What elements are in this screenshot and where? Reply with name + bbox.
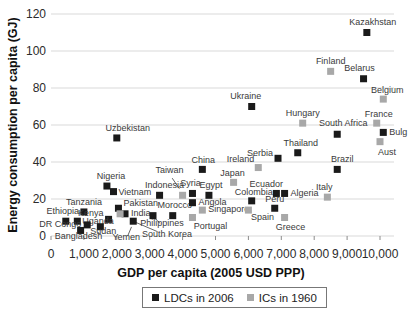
- data-point-yemen: [130, 218, 137, 225]
- x-tick-label: 0: [48, 247, 55, 261]
- legend-swatch-gray-square-icon: [247, 294, 254, 301]
- data-point-japan: [230, 179, 237, 186]
- point-label-ireland: Ireland: [227, 154, 255, 164]
- point-label-ethiopia: Ethiopia: [47, 206, 80, 216]
- point-label-ecuador: Ecuador: [250, 179, 284, 189]
- x-tick-label: 8,000: [299, 247, 329, 261]
- data-point-bulg: [380, 129, 387, 136]
- x-axis-title: GDP per capita (2005 USD PPP): [117, 266, 304, 280]
- y-tick-label: 40: [33, 155, 47, 169]
- point-label-aust: Aust: [378, 147, 397, 157]
- data-point-kazakhstan: [363, 29, 370, 36]
- point-label-nigeria: Nigeria: [97, 171, 126, 181]
- data-point-finland: [327, 68, 334, 75]
- data-point-italy: [324, 194, 331, 201]
- point-label-portugal: Portugal: [194, 221, 228, 231]
- y-tick-label: 120: [26, 7, 46, 21]
- point-label-japan: Japan: [220, 168, 245, 178]
- data-point-thailand: [294, 149, 301, 156]
- point-label-morocco: Morocco: [157, 200, 192, 210]
- y-tick-label: 60: [33, 118, 47, 132]
- point-label-india: India: [131, 208, 151, 218]
- x-tick-label: 10,000: [362, 247, 399, 261]
- legend: LDCs in 2006 ICs in 1960: [142, 287, 327, 308]
- point-label-finland: Finland: [316, 56, 346, 66]
- point-label-bulg: Bulg: [389, 127, 407, 137]
- x-tick-label: 5,000: [200, 247, 230, 261]
- point-label-uzbekistan: Uzbekistan: [106, 123, 151, 133]
- y-tick-label: 100: [26, 44, 46, 58]
- y-tick-label: 20: [33, 192, 47, 206]
- data-point-vietnam: [110, 188, 117, 195]
- point-label-south-africa: South Africa: [319, 118, 368, 128]
- x-tick-label: 6,000: [233, 247, 263, 261]
- point-label-taiwan: Taiwan: [156, 165, 184, 175]
- legend-item-ldcs: LDCs in 2006: [152, 292, 234, 304]
- x-tick-label: 9,000: [332, 247, 362, 261]
- chart-canvas: Energy consumption per capita (GJ) 02040…: [0, 0, 411, 322]
- point-label-belarus: Belarus: [344, 63, 375, 73]
- point-label-pakistan: Pakistan: [123, 198, 158, 208]
- data-point-syria: [189, 190, 196, 197]
- point-label-brazil: Brazil: [331, 154, 354, 164]
- point-label-spain: Spain: [251, 212, 274, 222]
- point-label-kazakhstan: Kazakhstan: [349, 17, 396, 27]
- data-point-ireland: [255, 164, 262, 171]
- y-tick-label: 0: [39, 229, 46, 243]
- data-point-belgium: [380, 96, 387, 103]
- data-point-taiwan: [179, 192, 186, 199]
- point-label-ukraine: Ukraine: [230, 91, 261, 101]
- point-label-hungary: Hungary: [286, 108, 321, 118]
- point-label-philippines: Philippines: [140, 218, 184, 228]
- x-tick-label: 2,000: [102, 247, 132, 261]
- point-label-italy: Italy: [316, 182, 333, 192]
- point-label-china: China: [192, 155, 216, 165]
- data-point-south-africa: [334, 131, 341, 138]
- legend-label-ldcs: LDCs in 2006: [164, 292, 234, 304]
- point-label-algeria: Algeria: [291, 188, 319, 198]
- legend-label-ics: ICs in 1960: [259, 292, 317, 304]
- data-point-south-korea: [117, 210, 124, 217]
- point-label-dr-congo: DR Congo: [39, 219, 81, 229]
- point-label-thailand: Thailand: [283, 138, 318, 148]
- data-point-uzbekistan: [113, 134, 120, 141]
- point-label-bangladesh: Bangladesh: [55, 231, 103, 241]
- data-point-angola: [189, 199, 196, 206]
- point-label-singapore: Singapore: [208, 204, 249, 214]
- x-tick-label: 1,000: [69, 247, 99, 261]
- data-point-serbia: [275, 155, 282, 162]
- x-tick-label: 4,000: [168, 247, 198, 261]
- data-point-brazil: [334, 166, 341, 173]
- point-label-greece: Greece: [276, 222, 306, 232]
- data-point-singapore: [199, 207, 206, 214]
- data-point-nigeria: [103, 183, 110, 190]
- legend-item-ics: ICs in 1960: [247, 292, 317, 304]
- point-label-south-korea: South Korea: [142, 229, 192, 239]
- y-tick-label: 80: [33, 81, 47, 95]
- data-point-ukraine: [248, 103, 255, 110]
- data-point-aust: [377, 138, 384, 145]
- point-label-indonesia: Indonesia: [145, 180, 184, 190]
- legend-swatch-black-square-icon: [152, 294, 159, 301]
- data-point-belarus: [360, 75, 367, 82]
- x-tick-label: 3,000: [135, 247, 165, 261]
- data-point-france: [373, 120, 380, 127]
- x-tick-label: 7,000: [266, 247, 296, 261]
- point-label-france: France: [365, 109, 393, 119]
- data-point-peru: [271, 205, 278, 212]
- data-point-hungary: [299, 120, 306, 127]
- point-label-yemen: Yemen: [112, 232, 140, 242]
- point-label-belgium: Belgium: [371, 85, 404, 95]
- point-label-peru: Peru: [265, 194, 284, 204]
- data-point-greece: [281, 214, 288, 221]
- point-label-egypt: Egypt: [199, 180, 223, 190]
- data-point-china: [199, 166, 206, 173]
